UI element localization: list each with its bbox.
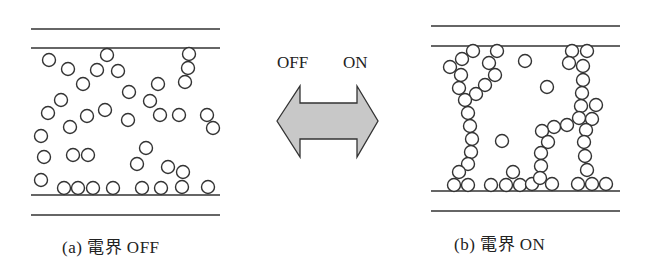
particle — [548, 121, 561, 134]
particle — [462, 179, 475, 192]
particle — [201, 109, 214, 122]
particle — [140, 142, 153, 155]
particle — [581, 45, 594, 58]
particle — [519, 55, 532, 68]
particle — [453, 166, 466, 179]
particle — [154, 109, 167, 122]
particle — [464, 120, 477, 133]
particle — [64, 121, 77, 134]
particle — [101, 49, 114, 62]
particle — [202, 181, 215, 194]
particle — [467, 45, 480, 58]
particle — [152, 78, 165, 91]
particle — [176, 181, 189, 194]
particle — [77, 78, 90, 91]
particle — [483, 57, 496, 70]
particle — [546, 178, 559, 191]
particle — [491, 45, 504, 58]
caption-panel-b: (b) 電界 ON — [454, 230, 545, 255]
particle — [144, 95, 157, 108]
particle — [136, 182, 149, 195]
particle — [489, 69, 502, 82]
particle — [577, 74, 590, 87]
particle — [578, 136, 591, 149]
particle — [586, 178, 599, 191]
panel-electric-field-off — [31, 29, 220, 215]
particle — [561, 119, 574, 132]
panel-electric-field-on — [431, 26, 620, 211]
particle — [600, 178, 613, 191]
particle — [155, 182, 168, 195]
particle — [535, 160, 548, 173]
particle — [563, 57, 576, 70]
bidirectional-arrow-icon — [277, 86, 378, 157]
particle — [456, 53, 469, 66]
particle — [496, 135, 509, 148]
particle — [55, 94, 68, 107]
particle — [448, 179, 461, 192]
particle — [58, 182, 71, 195]
particle — [38, 151, 51, 164]
particle — [535, 147, 548, 160]
particle — [62, 63, 75, 76]
particle — [162, 161, 175, 174]
particle — [507, 166, 520, 179]
particle — [455, 69, 468, 82]
particle — [82, 149, 95, 162]
particle — [466, 133, 479, 146]
particle — [122, 114, 135, 127]
particle — [207, 122, 220, 135]
particle — [590, 99, 603, 112]
particle — [177, 166, 190, 179]
particle — [541, 81, 554, 94]
particle — [577, 60, 590, 73]
particle — [500, 179, 513, 192]
particle — [123, 86, 136, 99]
particle — [444, 61, 457, 74]
particle — [573, 112, 586, 125]
particle — [485, 179, 498, 192]
particle — [179, 76, 192, 89]
particle — [131, 158, 144, 171]
particle — [67, 149, 80, 162]
particle — [173, 109, 186, 122]
particle — [453, 82, 466, 95]
particle — [465, 146, 478, 159]
particle — [183, 48, 196, 61]
particle — [572, 178, 585, 191]
caption-panel-a: (a) 電界 OFF — [62, 233, 160, 258]
particle — [459, 94, 472, 107]
particle — [580, 124, 593, 137]
particle — [91, 64, 104, 77]
particle — [581, 164, 594, 177]
particle — [534, 172, 547, 185]
particle — [99, 104, 112, 117]
particle — [576, 87, 589, 100]
particle — [182, 62, 195, 75]
particle — [514, 179, 527, 192]
particle — [81, 110, 94, 123]
particle — [579, 150, 592, 163]
particle — [87, 182, 100, 195]
particle — [575, 100, 588, 113]
particle — [107, 182, 120, 195]
particle — [462, 107, 475, 120]
particle — [112, 65, 125, 78]
particle — [72, 182, 85, 195]
particle — [42, 107, 55, 120]
particle — [35, 174, 48, 187]
particle — [43, 54, 56, 67]
particle — [566, 45, 579, 58]
particle — [35, 130, 48, 143]
arrow-label-on: ON — [343, 53, 368, 73]
arrow-label-off: OFF — [277, 53, 308, 73]
